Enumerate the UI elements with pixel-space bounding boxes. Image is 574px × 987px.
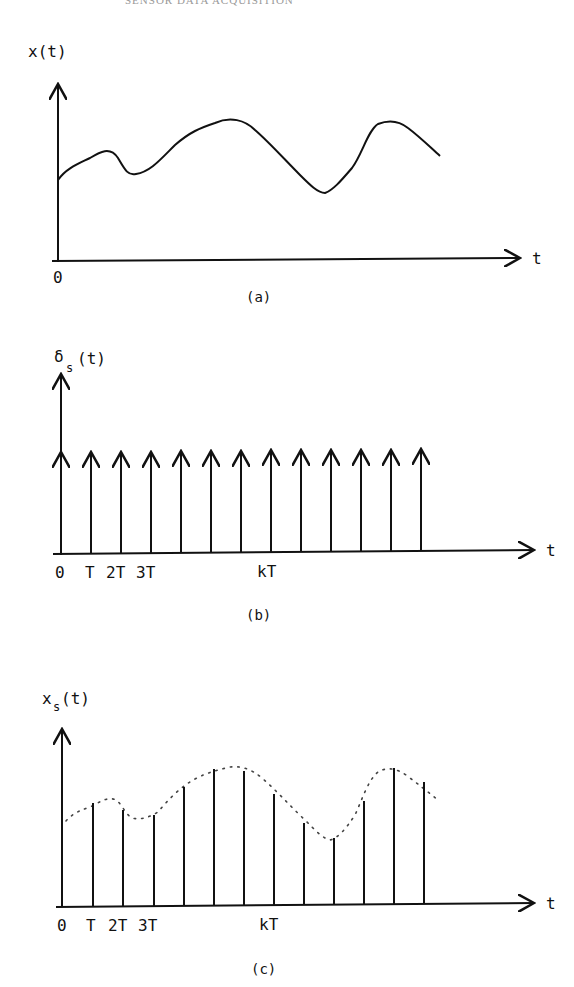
panel-b-y-label-tail: (t) [77,349,106,368]
panel-c-y-label-tail: (t) [61,689,90,708]
panel-c-y-label-sub: s [53,700,60,714]
panel-b-tick-0: 0 [55,563,65,582]
panel-c-x-axis [56,903,534,907]
panel-a-y-label: x(t) [28,42,67,61]
panel-b-y-label-main: δ [54,347,64,366]
panel-c-dotted-envelope [66,767,438,840]
panel-b-tick-2T: 2T [106,563,126,582]
panel-b-tick-T: T [85,563,95,582]
panel-c-tick-0: 0 [57,916,67,935]
panel-c-tick-T: T [86,916,96,935]
sampling-figure: x(t) t 0 (a) δ s (t) t 0 T [0,0,574,987]
panel-b: δ s (t) t 0 T 2T 3T kT (b) [53,347,556,623]
panel-b-x-label: t [546,541,556,560]
panel-a-caption: (a) [246,289,271,305]
panel-c-y-label-main: x [42,689,52,708]
panel-a: x(t) t 0 (a) [28,42,542,305]
panel-b-impulse-train [61,449,421,554]
panel-a-x-axis [52,258,520,261]
panel-c-sample-stems [93,768,424,907]
panel-b-caption: (b) [246,607,271,623]
panel-c: x s (t) t 0 T 2T 3T kT (c) [42,689,556,977]
panel-a-origin-label: 0 [53,268,63,287]
panel-b-y-label-sub: s [66,361,73,375]
panel-c-tick-3T: 3T [138,916,158,935]
panel-a-signal-curve [58,119,440,193]
panel-c-caption: (c) [251,961,276,977]
panel-b-tick-kT: kT [257,562,277,581]
panel-b-x-axis [53,550,534,554]
panel-c-tick-kT: kT [259,915,279,934]
panel-c-x-label: t [546,894,556,913]
panel-b-tick-3T: 3T [136,563,156,582]
panel-a-x-label: t [532,249,542,268]
panel-c-tick-2T: 2T [108,916,128,935]
